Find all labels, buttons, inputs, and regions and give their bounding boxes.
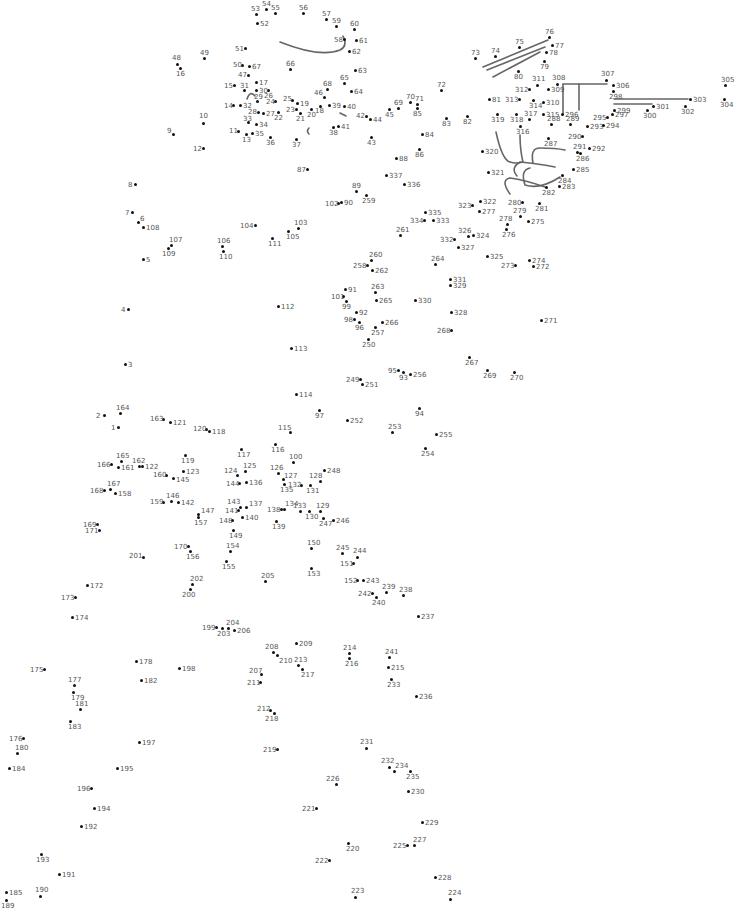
dot-label-253: 253 [388, 423, 401, 431]
dot-209 [295, 642, 298, 645]
dot-329 [449, 284, 452, 287]
dot-label-144: 144 [226, 480, 239, 488]
dot-30 [255, 89, 258, 92]
dot-39 [328, 104, 331, 107]
dot-label-156: 156 [186, 553, 199, 561]
dot-label-295: 295 [593, 114, 606, 122]
dot-label-110: 110 [219, 253, 232, 261]
dot-label-176: 176 [9, 735, 22, 743]
dot-23 [295, 108, 298, 111]
dot-label-195: 195 [120, 765, 133, 773]
dot-label-199: 199 [202, 624, 215, 632]
dot-label-294: 294 [606, 122, 619, 130]
dot-215 [387, 666, 390, 669]
dot-274 [528, 259, 531, 262]
claw-3 [514, 162, 555, 176]
dot-label-200: 200 [182, 591, 195, 599]
dot-label-160: 160 [153, 471, 166, 479]
dot-243 [362, 579, 365, 582]
dot-label-322: 322 [483, 198, 496, 206]
dot-label-231: 231 [360, 738, 373, 746]
dot-label-49: 49 [200, 49, 209, 57]
dot-label-181: 181 [75, 700, 88, 708]
dot-266 [381, 321, 384, 324]
dot-label-234: 234 [395, 762, 408, 770]
dot-label-50: 50 [233, 61, 242, 69]
mouth-tick [340, 113, 346, 116]
dot-label-247: 247 [319, 520, 332, 528]
dot-label-85: 85 [413, 110, 422, 118]
dot-label-1: 1 [111, 424, 115, 432]
dot-label-285: 285 [576, 166, 589, 174]
dot-label-175: 175 [30, 666, 43, 674]
dot-label-95: 95 [388, 367, 397, 375]
dot-label-264: 264 [431, 255, 444, 263]
dot-label-194: 194 [97, 805, 110, 813]
dot-label-106: 106 [217, 237, 230, 245]
dot-256 [409, 373, 412, 376]
dot-label-139: 139 [272, 523, 285, 531]
dot-label-33: 33 [243, 115, 252, 123]
dot-label-7: 7 [125, 209, 129, 217]
dot-label-314: 314 [529, 102, 542, 110]
dot-label-78: 78 [549, 49, 558, 57]
dot-label-56: 56 [299, 4, 308, 12]
dot-98 [353, 318, 356, 321]
dot-27 [262, 112, 265, 115]
dot-label-9: 9 [167, 127, 171, 135]
dot-label-258: 258 [353, 262, 366, 270]
dot-label-43: 43 [367, 139, 376, 147]
dot-206 [233, 629, 236, 632]
dot-223 [354, 896, 357, 899]
dot-158 [114, 492, 117, 495]
dot-label-140: 140 [245, 514, 258, 522]
dot-label-241: 241 [385, 648, 398, 656]
dot-label-237: 237 [421, 613, 434, 621]
dot-42 [365, 115, 368, 118]
dot-label-13: 13 [242, 136, 251, 144]
dot-label-141: 141 [225, 507, 238, 515]
dot-label-300: 300 [643, 112, 656, 120]
dot-label-163: 163 [150, 415, 163, 423]
dot-label-303: 303 [693, 96, 706, 104]
dot-label-239: 239 [382, 583, 395, 591]
dot-12 [202, 147, 205, 150]
dot-297 [611, 113, 614, 116]
dot-84 [421, 133, 424, 136]
dot-label-37: 37 [292, 141, 301, 149]
dot-label-333: 333 [436, 217, 449, 225]
dot-label-10: 10 [199, 112, 208, 120]
dot-145 [172, 477, 175, 480]
dot-40 [343, 105, 346, 108]
dot-label-59: 59 [332, 17, 341, 25]
dot-label-103: 103 [294, 219, 307, 227]
dot-label-20: 20 [307, 111, 316, 119]
dot-label-208: 208 [265, 643, 278, 651]
dot-label-53: 53 [251, 5, 260, 13]
dot-label-180: 180 [15, 744, 28, 752]
dot-label-286: 286 [576, 155, 589, 163]
dot-label-265: 265 [379, 297, 392, 305]
dot-label-198: 198 [182, 665, 195, 673]
dot-label-18: 18 [315, 107, 324, 115]
dot-108 [142, 226, 145, 229]
dot-label-54: 54 [262, 0, 271, 8]
dot-label-193: 193 [36, 856, 49, 864]
dot-label-15: 15 [224, 82, 233, 90]
claw-1 [496, 132, 523, 163]
dot-19 [296, 102, 299, 105]
dot-label-178: 178 [139, 658, 152, 666]
dot-35 [251, 132, 254, 135]
dot-label-183: 183 [68, 723, 81, 731]
dot-label-334: 334 [410, 217, 423, 225]
dot-140 [241, 516, 244, 519]
dot-3 [124, 363, 127, 366]
dot-label-153: 153 [307, 570, 320, 578]
dot-label-246: 246 [336, 517, 349, 525]
dot-185 [5, 891, 8, 894]
dot-296 [561, 113, 564, 116]
dot-label-291: 291 [573, 143, 586, 151]
dot-label-8: 8 [128, 181, 132, 189]
dot-label-320: 320 [485, 148, 498, 156]
dot-194 [93, 807, 96, 810]
